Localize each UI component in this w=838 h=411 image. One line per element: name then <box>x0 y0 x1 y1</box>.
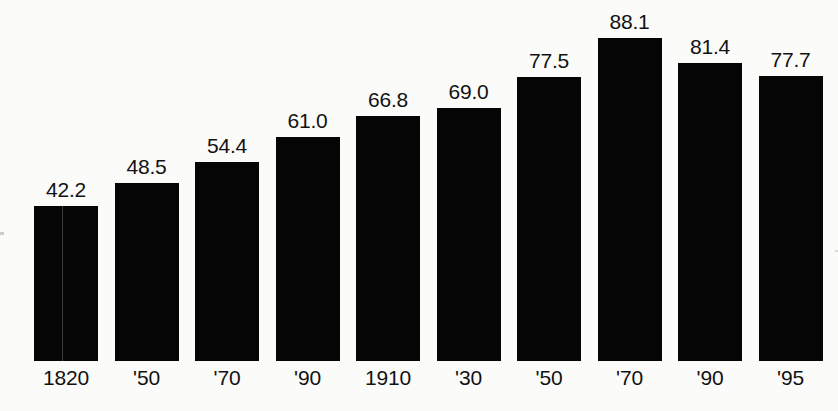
bar <box>195 162 259 361</box>
bar-value-label: 77.7 <box>759 49 823 70</box>
bar <box>276 137 340 361</box>
bar-value-label: 66.8 <box>356 89 420 110</box>
bar <box>437 108 501 361</box>
x-axis-tick-label: 1820 <box>34 367 98 388</box>
bar-group: 54.4'70 <box>195 0 259 411</box>
x-axis-tick-label: '70 <box>598 367 662 388</box>
bar <box>598 38 662 361</box>
x-axis-tick-label: '90 <box>276 367 340 388</box>
bar <box>34 206 98 361</box>
bar-group: 66.81910 <box>356 0 420 411</box>
bar-value-label: 48.5 <box>115 156 179 177</box>
bar-value-label: 77.5 <box>517 50 581 71</box>
bar-value-label: 54.4 <box>195 135 259 156</box>
bar-group: 42.21820 <box>34 0 98 411</box>
bar-group: 61.0'90 <box>276 0 340 411</box>
plot-area: 42.2182048.5'5054.4'7061.0'9066.8191069.… <box>0 0 838 411</box>
bar-value-label: 88.1 <box>598 11 662 32</box>
bar <box>678 63 742 361</box>
bar-group: 77.7'95 <box>759 0 823 411</box>
bar <box>115 183 179 361</box>
scan-artifact-left <box>0 232 4 235</box>
x-axis-tick-label: '90 <box>678 367 742 388</box>
bar-group: 88.1'70 <box>598 0 662 411</box>
bar-value-label: 69.0 <box>437 81 501 102</box>
bar-group: 77.5'50 <box>517 0 581 411</box>
x-axis-tick-label: '70 <box>195 367 259 388</box>
bar <box>356 116 420 361</box>
x-axis-tick-label: '50 <box>115 367 179 388</box>
bar-group: 48.5'50 <box>115 0 179 411</box>
x-axis-tick-label: '50 <box>517 367 581 388</box>
bar <box>517 77 581 361</box>
bar-value-label: 42.2 <box>34 179 98 200</box>
x-axis-tick-label: '95 <box>759 367 823 388</box>
x-axis-tick-label: '30 <box>437 367 501 388</box>
bar <box>759 76 823 361</box>
bar-group: 69.0'30 <box>437 0 501 411</box>
bar-chart-figure: 42.2182048.5'5054.4'7061.0'9066.8191069.… <box>0 0 838 411</box>
bar-value-label: 61.0 <box>276 110 340 131</box>
bar-value-label: 81.4 <box>678 36 742 57</box>
bar-group: 81.4'90 <box>678 0 742 411</box>
x-axis-tick-label: 1910 <box>356 367 420 388</box>
bar-scan-seam <box>62 206 63 361</box>
